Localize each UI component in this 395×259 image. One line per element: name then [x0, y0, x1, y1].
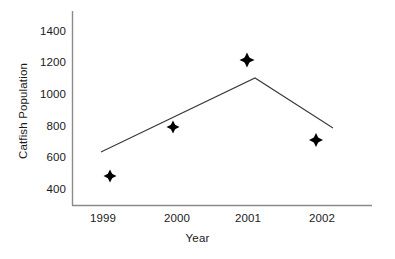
data-marker-2000 — [167, 121, 180, 134]
x-axis-title: Year — [0, 232, 395, 244]
trend-line — [101, 78, 333, 152]
x-tick-label-2000: 2000 — [152, 212, 202, 224]
y-tick-label-800: 800 — [28, 120, 66, 132]
data-marker-1999 — [104, 170, 117, 183]
x-tick-label-1999: 1999 — [78, 212, 128, 224]
y-tick-label-1200: 1200 — [28, 56, 66, 68]
x-tick-label-2002: 2002 — [297, 212, 347, 224]
y-tick-label-1400: 1400 — [28, 25, 66, 37]
y-axis-title: Catfish Population — [17, 31, 29, 191]
data-marker-2001 — [240, 53, 255, 68]
data-marker-2002 — [309, 133, 323, 147]
y-tick-label-600: 600 — [28, 151, 66, 163]
y-tick-label-400: 400 — [28, 183, 66, 195]
y-tick-label-1000: 1000 — [28, 88, 66, 100]
x-tick-label-2001: 2001 — [223, 212, 273, 224]
catfish-population-chart: 1400 1200 1000 800 600 400 1999 2000 200… — [0, 0, 395, 259]
